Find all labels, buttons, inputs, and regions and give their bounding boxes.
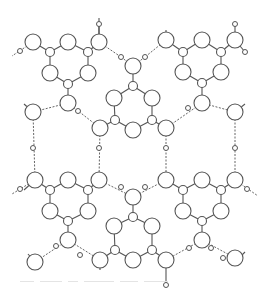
small-atom-circle (111, 116, 120, 125)
hydrogen-atom-circle (143, 55, 148, 60)
large-atom-circle (194, 172, 210, 188)
small-atom-circle (129, 82, 138, 91)
large-atom-circle (91, 172, 107, 188)
large-atom-circle (158, 172, 174, 188)
hydrogen-atom-circle (233, 22, 238, 27)
large-atom-circle (227, 250, 243, 266)
large-atom-circle (42, 203, 58, 219)
hydrogen-atom-circle (187, 246, 192, 251)
hydrogen-atom-circle (233, 146, 238, 151)
figure-caption (20, 272, 250, 280)
large-atom-circle (80, 203, 96, 219)
large-atom-circle (92, 252, 108, 268)
hydrogen-atom-circle (245, 187, 250, 192)
large-atom-circle (144, 90, 160, 106)
large-atom-circle (227, 104, 243, 120)
hydrogen-atom-circle (97, 22, 102, 27)
small-atom-circle (217, 48, 226, 57)
large-atom-circle (158, 32, 174, 48)
large-atom-circle (175, 203, 191, 219)
large-atom-circle (91, 34, 107, 50)
small-atom-circle (46, 186, 55, 195)
hydrogen-atom-circle (119, 55, 124, 60)
small-atom-circle (46, 48, 55, 57)
atom-layer (18, 22, 250, 288)
hydrogen-atom-circle (78, 253, 83, 258)
small-atom-circle (64, 217, 73, 226)
small-atom-circle (148, 116, 157, 125)
large-atom-circle (60, 232, 76, 248)
small-atom-circle (64, 80, 73, 89)
small-atom-circle (148, 246, 157, 255)
hydrogen-atom-circle (18, 187, 23, 192)
large-atom-circle (194, 32, 210, 48)
large-atom-circle (213, 64, 229, 80)
hydrogen-atom-circle (209, 246, 214, 251)
hydrogen-atom-circle (164, 283, 169, 288)
large-atom-circle (25, 34, 41, 50)
large-atom-circle (80, 65, 96, 81)
large-atom-circle (60, 172, 76, 188)
hydrogen-atom-circle (243, 50, 248, 55)
large-atom-circle (227, 172, 243, 188)
hydrogen-atom-circle (186, 106, 191, 111)
large-atom-circle (227, 32, 243, 48)
large-atom-circle (92, 120, 108, 136)
large-atom-circle (25, 104, 41, 120)
large-atom-circle (213, 203, 229, 219)
small-atom-circle (84, 48, 93, 57)
large-atom-circle (42, 65, 58, 81)
large-atom-circle (175, 64, 191, 80)
large-atom-circle (194, 232, 210, 248)
large-atom-circle (125, 58, 141, 74)
hydrogen-atom-circle (31, 146, 36, 151)
molecular-network-diagram (0, 0, 265, 288)
hydrogen-atom-circle (97, 146, 102, 151)
hydrogen-atom-circle (54, 244, 59, 249)
hydrogen-atom-circle (143, 185, 148, 190)
large-atom-circle (158, 252, 174, 268)
small-atom-circle (179, 186, 188, 195)
small-atom-circle (217, 186, 226, 195)
large-atom-circle (27, 172, 43, 188)
hydrogen-atom-circle (221, 256, 226, 261)
hydrogen-atom-circle (18, 49, 23, 54)
large-atom-circle (60, 95, 76, 111)
large-atom-circle (158, 120, 174, 136)
large-atom-circle (125, 189, 141, 205)
large-atom-circle (27, 254, 43, 270)
hydrogen-atom-circle (76, 109, 81, 114)
hydrogen-atom-circle (119, 185, 124, 190)
small-atom-circle (84, 186, 93, 195)
small-atom-circle (179, 48, 188, 57)
large-atom-circle (194, 95, 210, 111)
small-atom-circle (111, 246, 120, 255)
large-atom-circle (144, 218, 160, 234)
large-atom-circle (125, 252, 141, 268)
large-atom-circle (106, 218, 122, 234)
small-atom-circle (198, 79, 207, 88)
small-atom-circle (198, 217, 207, 226)
hydrogen-atom-circle (164, 146, 169, 151)
large-atom-circle (125, 122, 141, 138)
large-atom-circle (60, 34, 76, 50)
small-atom-circle (129, 213, 138, 222)
large-atom-circle (106, 90, 122, 106)
